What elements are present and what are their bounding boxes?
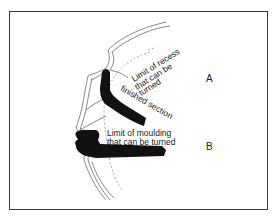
moulding-diagram: Limit of recess that can be turned finis… [0, 0, 279, 221]
marker-a: A [206, 73, 213, 84]
moulding-label-line2: that can be turned [107, 137, 176, 147]
marker-b: B [206, 141, 213, 152]
